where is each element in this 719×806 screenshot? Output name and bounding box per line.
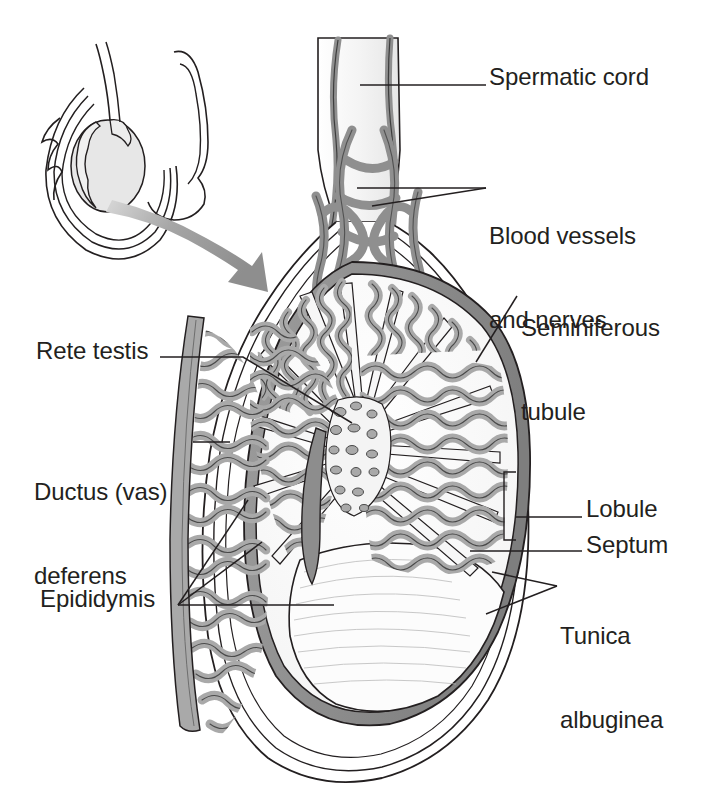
label-septum: Septum <box>586 531 668 559</box>
figure-canvas: Spermatic cord Blood vessels and nerves … <box>0 0 719 806</box>
label-tunica-line-2: albuginea <box>560 706 719 734</box>
label-epididymis: Epididymis <box>40 585 155 613</box>
label-seminiferous-line-1: Seminiferous <box>521 314 719 342</box>
label-tunica-line-1: Tunica <box>560 622 719 650</box>
label-seminiferous-tubule: Seminiferous tubule <box>521 258 719 454</box>
label-tunica-albuginea: Tunica albuginea <box>560 566 719 762</box>
label-rete-testis: Rete testis <box>36 337 148 365</box>
label-spermatic-cord: Spermatic cord <box>489 63 649 91</box>
label-seminiferous-line-2: tubule <box>521 398 719 426</box>
label-lobule: Lobule <box>586 495 657 523</box>
label-ductus-line-1: Ductus (vas) <box>34 478 214 506</box>
label-blood-vessels-line-1: Blood vessels <box>489 222 699 250</box>
magnify-arrow <box>106 200 268 292</box>
